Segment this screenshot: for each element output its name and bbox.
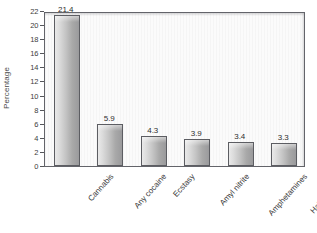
bar-value-label: 21.4 bbox=[50, 5, 82, 14]
y-axis-tick: 12 bbox=[24, 77, 45, 87]
plot-area bbox=[44, 12, 305, 167]
y-axis-tick-label: 14 bbox=[24, 63, 39, 73]
x-axis-category-label: Amyl nitrite bbox=[218, 172, 251, 207]
bar-value-label: 4.3 bbox=[137, 126, 169, 135]
y-axis-tick-label: 18 bbox=[24, 35, 39, 45]
x-axis-category-label: Ecstasy bbox=[171, 172, 196, 199]
x-axis-category-label: Hallucinogens bbox=[309, 172, 317, 215]
bar bbox=[228, 142, 254, 166]
bar bbox=[54, 15, 80, 166]
bar-highlight bbox=[55, 16, 79, 22]
y-axis-tick: 8 bbox=[24, 106, 45, 116]
plot-right-shadow bbox=[301, 13, 304, 166]
bar-highlight bbox=[142, 137, 166, 143]
y-axis-tick-label: 20 bbox=[24, 21, 39, 31]
bar-highlight bbox=[98, 125, 122, 131]
y-axis-tick: 20 bbox=[24, 21, 45, 31]
bar-value-label: 3.4 bbox=[224, 132, 256, 141]
y-axis-tick-label: 12 bbox=[24, 77, 39, 87]
y-axis-tick: 18 bbox=[24, 35, 45, 45]
y-axis-tick: 2 bbox=[24, 148, 45, 158]
x-axis-category-label: Any cocaine bbox=[133, 172, 169, 210]
y-axis-title: Percentage bbox=[0, 53, 14, 123]
bar-highlight bbox=[185, 140, 209, 146]
y-axis-title-text: Percentage bbox=[0, 53, 14, 123]
y-axis-tick-label: 6 bbox=[24, 120, 39, 130]
y-axis-tick-label: 2 bbox=[24, 148, 39, 158]
bar-value-label: 3.3 bbox=[267, 133, 299, 142]
bar bbox=[184, 139, 210, 166]
y-axis-tick-labels: 2220181614121086420 bbox=[14, 12, 44, 167]
plot-top-shadow bbox=[45, 13, 304, 16]
bar-value-label: 3.9 bbox=[180, 129, 212, 138]
y-axis-tick-label: 22 bbox=[24, 7, 39, 17]
bar-value-label: 5.9 bbox=[93, 114, 125, 123]
y-axis-tick-label: 16 bbox=[24, 49, 39, 59]
y-axis-tick-label: 8 bbox=[24, 106, 39, 116]
y-axis-tick: 16 bbox=[24, 49, 45, 59]
y-axis-tick: 22 bbox=[24, 7, 45, 17]
plot-background-texture bbox=[45, 13, 304, 166]
bar-highlight bbox=[272, 144, 296, 150]
y-axis-tick: 4 bbox=[24, 134, 45, 144]
bar bbox=[97, 124, 123, 166]
y-axis-tick-label: 4 bbox=[24, 134, 39, 144]
bar-chart-figure: Percentage 2220181614121086420 21.45.94.… bbox=[0, 0, 317, 233]
x-axis-category-label: Cannabis bbox=[86, 172, 115, 203]
bar bbox=[271, 143, 297, 166]
y-axis-tick: 0 bbox=[24, 162, 45, 172]
y-axis-tick-label: 10 bbox=[24, 92, 39, 102]
y-axis-tick: 6 bbox=[24, 120, 45, 130]
y-axis-tick: 10 bbox=[24, 92, 45, 102]
bar-highlight bbox=[229, 143, 253, 149]
y-axis-tick: 14 bbox=[24, 63, 45, 73]
y-axis-tick-label: 0 bbox=[24, 162, 39, 172]
bar bbox=[141, 136, 167, 166]
x-axis-category-label: Amphetamines bbox=[266, 172, 308, 218]
